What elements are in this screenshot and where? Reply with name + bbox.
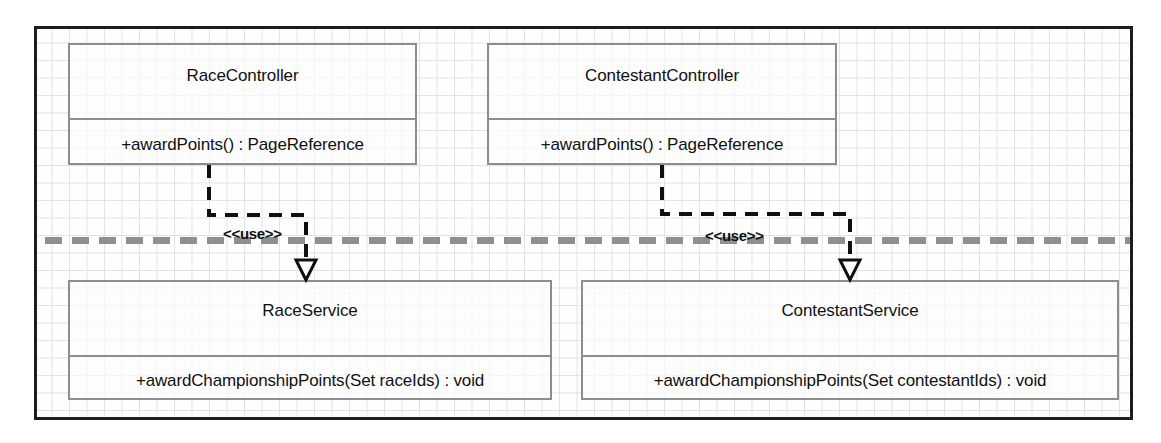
- dependency-label-use-right: <<use>>: [705, 227, 764, 244]
- diagram-canvas: RaceController +awardPoints() : PageRefe…: [0, 0, 1161, 443]
- dependency-arrowhead-use-right: [840, 260, 860, 280]
- dependency-line-use-right: [662, 165, 850, 261]
- dependency-connectors: [37, 29, 1136, 423]
- dependency-line-use-left: [209, 165, 306, 262]
- dependency-arrowhead-use-left: [296, 260, 316, 280]
- dependency-label-use-left: <<use>>: [223, 225, 282, 242]
- diagram-frame: RaceController +awardPoints() : PageRefe…: [34, 26, 1133, 420]
